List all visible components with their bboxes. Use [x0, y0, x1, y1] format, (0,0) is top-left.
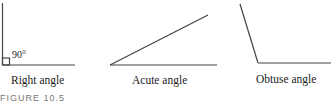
obtuse-angle-shape	[240, 4, 331, 63]
obtuse-angle-label: Obtuse angle	[256, 73, 316, 85]
acute-angle-label: Acute angle	[132, 74, 187, 86]
ninety-degree-label: 90°	[12, 49, 26, 60]
right-angle-label: Right angle	[11, 74, 64, 86]
angle-diagram	[0, 0, 332, 103]
acute-angle-shape	[110, 15, 217, 65]
figure-caption: FIGURE 10.5	[0, 93, 65, 103]
